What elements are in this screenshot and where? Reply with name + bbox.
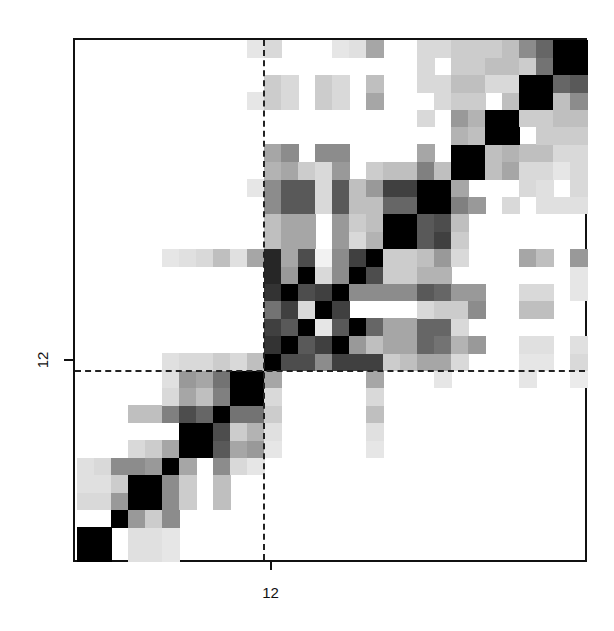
heatmap-cell	[366, 92, 384, 110]
heatmap-cell	[196, 440, 214, 458]
heatmap-cell	[264, 162, 282, 180]
heatmap-cell	[536, 110, 554, 128]
heatmap-cell	[230, 353, 248, 371]
heatmap-cell	[162, 527, 180, 545]
heatmap-cell	[570, 336, 588, 354]
heatmap-cell	[417, 249, 435, 267]
heatmap-cell	[77, 492, 95, 510]
heatmap-cell	[264, 318, 282, 336]
heatmap-cell	[451, 214, 469, 232]
heatmap-cell	[332, 197, 350, 215]
heatmap-cell	[247, 371, 265, 389]
heatmap-cell	[247, 179, 265, 197]
heatmap-cell	[536, 144, 554, 162]
heatmap-cell	[94, 458, 112, 476]
heatmap-cell	[519, 57, 537, 75]
horizontal-divider-line	[75, 370, 585, 372]
heatmap-cell	[468, 75, 486, 93]
heatmap-cell	[77, 545, 95, 563]
heatmap-cell	[383, 318, 401, 336]
heatmap-cell	[332, 318, 350, 336]
heatmap-cell	[553, 92, 571, 110]
heatmap-cell	[162, 440, 180, 458]
heatmap-cell	[298, 249, 316, 267]
heatmap-cell	[366, 40, 384, 58]
heatmap-cell	[298, 336, 316, 354]
x-axis-tick-label: 12	[262, 584, 279, 601]
heatmap-cell	[128, 440, 146, 458]
heatmap-cell	[468, 110, 486, 128]
heatmap-cell	[417, 57, 435, 75]
heatmap-cell	[230, 458, 248, 476]
heatmap-cell	[366, 162, 384, 180]
heatmap-cell	[366, 388, 384, 406]
heatmap-cell	[366, 179, 384, 197]
heatmap-cell	[230, 249, 248, 267]
heatmap-cell	[553, 110, 571, 128]
heatmap-cell	[451, 197, 469, 215]
heatmap-cell	[264, 249, 282, 267]
heatmap-cell	[366, 423, 384, 441]
heatmap-cell	[417, 40, 435, 58]
heatmap-cell	[281, 336, 299, 354]
heatmap-cell	[332, 266, 350, 284]
heatmap-cell	[332, 336, 350, 354]
heatmap-cell	[434, 318, 452, 336]
heatmap-cell	[264, 353, 282, 371]
heatmap-cell	[485, 144, 503, 162]
heatmap-cell	[570, 249, 588, 267]
heatmap-cell	[468, 162, 486, 180]
heatmap-cell	[230, 440, 248, 458]
heatmap-cell	[162, 249, 180, 267]
heatmap-cell	[434, 179, 452, 197]
heatmap-cell	[570, 197, 588, 215]
heatmap-cell	[570, 92, 588, 110]
heatmap-cell	[400, 214, 418, 232]
heatmap-cell	[366, 214, 384, 232]
heatmap-cell	[383, 231, 401, 249]
heatmap-cell	[264, 40, 282, 58]
heatmap-cell	[111, 510, 129, 528]
heatmap-cell	[502, 162, 520, 180]
heatmap-cell	[570, 40, 588, 58]
heatmap-cell	[400, 179, 418, 197]
heatmap-cell	[434, 266, 452, 284]
heatmap-cell	[417, 110, 435, 128]
heatmap-cell	[264, 423, 282, 441]
heatmap-cell	[247, 92, 265, 110]
heatmap-cell	[400, 249, 418, 267]
heatmap-cell	[383, 336, 401, 354]
heatmap-cell	[570, 266, 588, 284]
heatmap-cell	[468, 336, 486, 354]
heatmap-cell	[366, 266, 384, 284]
heatmap-cell	[281, 197, 299, 215]
heatmap-cell	[281, 179, 299, 197]
heatmap-cell	[570, 57, 588, 75]
heatmap-cell	[349, 231, 367, 249]
heatmap-cell	[349, 266, 367, 284]
heatmap-cell	[451, 249, 469, 267]
heatmap-cell	[553, 75, 571, 93]
heatmap-cell	[179, 388, 197, 406]
heatmap-cell	[281, 144, 299, 162]
heatmap-cell	[485, 57, 503, 75]
heatmap-cell	[519, 75, 537, 93]
heatmap-cell	[434, 40, 452, 58]
heatmap-cell	[451, 336, 469, 354]
heatmap-cell	[332, 40, 350, 58]
heatmap-cell	[179, 249, 197, 267]
heatmap-cell	[451, 231, 469, 249]
heatmap-cell	[281, 318, 299, 336]
heatmap-cell	[196, 249, 214, 267]
heatmap-cell	[502, 92, 520, 110]
heatmap-cell	[281, 266, 299, 284]
heatmap-cell	[298, 284, 316, 302]
heatmap-cell	[485, 127, 503, 145]
heatmap-cell	[349, 197, 367, 215]
heatmap-cell	[179, 405, 197, 423]
heatmap-cell	[468, 127, 486, 145]
heatmap-cell	[519, 40, 537, 58]
heatmap-cell	[570, 284, 588, 302]
heatmap-cell	[196, 353, 214, 371]
heatmap-cell	[179, 423, 197, 441]
